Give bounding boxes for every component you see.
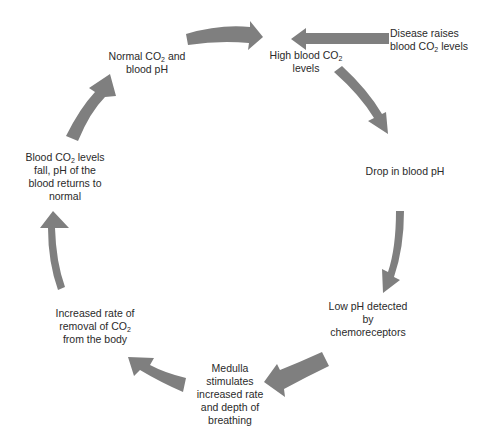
node-text: chemoreceptors — [318, 326, 418, 339]
node-text: stimulates — [190, 375, 270, 388]
node-chemoreceptors: Low pH detected by chemoreceptors — [318, 300, 418, 339]
arrow-disease-to-high — [291, 28, 389, 50]
subscript: 2 — [127, 326, 131, 333]
node-text: breathing — [190, 414, 270, 427]
node-text: levels — [75, 151, 105, 163]
node-text: Drop in blood pH — [355, 165, 455, 178]
arrow-normal-to-high — [186, 21, 263, 50]
node-text: and depth of — [190, 401, 270, 414]
node-drop-in-ph: Drop in blood pH — [355, 165, 455, 178]
node-text: High blood CO — [270, 49, 339, 61]
node-co2-falls: Blood CO2 levels fall, pH of the blood r… — [20, 151, 110, 203]
arrow-detect-to-medulla — [264, 352, 329, 397]
node-text: and — [165, 50, 185, 62]
node-text: blood CO — [390, 40, 434, 52]
node-text: levels — [263, 62, 349, 75]
node-text: normal — [20, 190, 110, 203]
arrow-fall-to-normal — [66, 74, 116, 141]
node-text: fall, pH of the — [20, 164, 110, 177]
arrow-high-to-drop — [334, 66, 388, 134]
node-text: blood pH — [104, 63, 190, 76]
node-text: Disease raises — [390, 27, 474, 40]
node-normal-co2: Normal CO2 and blood pH — [104, 50, 190, 76]
node-medulla: Medulla stimulates increased rate and de… — [190, 362, 270, 427]
subscript: 2 — [338, 55, 342, 62]
node-text: Low pH detected — [318, 300, 418, 313]
arrow-drop-to-detect — [382, 211, 404, 293]
node-text: from the body — [52, 333, 138, 346]
node-text: blood returns to — [20, 177, 110, 190]
node-text: removal of CO — [59, 320, 127, 332]
node-removal-co2: Increased rate of removal of CO2 from th… — [52, 307, 138, 346]
node-text: Normal CO — [109, 50, 162, 62]
arrow-medulla-to-removal — [128, 357, 186, 392]
node-text: increased rate — [190, 388, 270, 401]
node-text: Blood CO — [25, 151, 71, 163]
node-text: by — [318, 313, 418, 326]
node-high-blood-co2: High blood CO2 levels — [263, 49, 349, 75]
node-disease: Disease raises blood CO2 levels — [390, 27, 474, 53]
node-text: Medulla — [190, 362, 270, 375]
arrow-removal-to-fall — [40, 211, 69, 290]
node-text: Increased rate of — [52, 307, 138, 320]
node-text: levels — [438, 40, 468, 52]
